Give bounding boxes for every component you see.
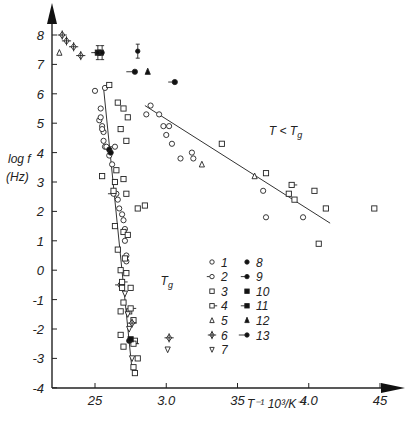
y-tick-label: 1 <box>37 234 44 249</box>
data-point <box>107 82 112 87</box>
y-tick-label: 6 <box>37 87 45 102</box>
data-point <box>110 162 115 167</box>
data-point <box>122 238 127 243</box>
data-point <box>122 256 127 261</box>
data-point <box>167 124 172 129</box>
legend-label: 8 <box>256 256 263 270</box>
data-point <box>316 241 321 246</box>
x-axis-arrow-icon <box>381 383 405 393</box>
x-tick-label: 3.0 <box>157 393 176 408</box>
data-point <box>115 100 120 105</box>
data-point <box>57 50 62 56</box>
arrhenius-plot: 876543210-1-2-3-4 253.0354.045 T < TgTg … <box>0 0 410 421</box>
y-tick-label: 5 <box>37 116 45 131</box>
y-tick-label: 3 <box>37 175 45 190</box>
y-tick-label: 2 <box>36 204 45 219</box>
data-point <box>118 126 123 131</box>
data-point <box>121 344 126 349</box>
data-point <box>126 69 137 74</box>
data-point <box>161 124 166 129</box>
legend-item-5: 5 <box>210 314 228 328</box>
data-point <box>136 44 140 58</box>
legend-item-6: 6 <box>208 329 228 343</box>
data-point <box>98 106 103 111</box>
legend-item-12: 12 <box>245 314 270 328</box>
data-point <box>100 174 105 179</box>
x-tick-label: 35 <box>230 393 245 408</box>
annotation-label: T < Tg <box>269 124 302 140</box>
data-point <box>144 112 149 117</box>
data-point <box>125 115 130 120</box>
data-point <box>119 279 127 284</box>
legend-item-8: 8 <box>245 256 263 270</box>
legend-label: 3 <box>221 285 228 299</box>
y-ticks: 876543210-1-2-3-4 <box>32 28 57 396</box>
legend-item-2: 2 <box>207 270 228 284</box>
data-point <box>127 326 132 332</box>
data-point <box>119 212 124 217</box>
data-point <box>121 176 126 181</box>
data-point <box>372 206 377 211</box>
data-point <box>135 206 140 211</box>
data-point <box>169 141 174 146</box>
fit-line-t-tg <box>145 106 330 224</box>
series-1 <box>92 85 305 264</box>
data-point <box>100 126 105 131</box>
y-axis-label-line2: (Hz) <box>6 170 29 184</box>
data-point <box>118 268 123 273</box>
data-point <box>128 285 133 290</box>
data-point <box>312 188 317 193</box>
data-point <box>165 347 170 353</box>
series-10 <box>128 337 133 342</box>
data-point <box>92 88 97 93</box>
data-point <box>124 191 129 196</box>
data-point <box>111 188 116 193</box>
data-point <box>189 150 194 155</box>
data-point <box>128 306 136 311</box>
data-point <box>108 150 113 155</box>
x-tick-label: 25 <box>87 393 103 408</box>
data-point <box>323 206 328 211</box>
legend-label: 6 <box>221 329 228 343</box>
y-tick-label: 7 <box>37 57 45 72</box>
data-point <box>125 232 130 237</box>
legend-item-13: 13 <box>239 329 270 343</box>
data-point <box>112 224 117 229</box>
legend-item-7: 7 <box>210 343 229 357</box>
legend-item-9: 9 <box>241 270 263 284</box>
data-point <box>135 356 140 361</box>
data-point <box>128 337 133 342</box>
data-point <box>263 215 268 220</box>
data-point <box>289 182 297 187</box>
data-point <box>145 68 150 74</box>
legend-label: 12 <box>256 314 270 328</box>
data-point <box>292 197 297 202</box>
data-point <box>117 206 122 211</box>
data-point <box>263 171 268 176</box>
data-point <box>122 291 127 297</box>
legend-item-3: 3 <box>210 285 228 299</box>
data-point <box>96 46 100 60</box>
legend-item-4: 4 <box>210 299 228 313</box>
data-point <box>286 191 291 196</box>
legend-label: 7 <box>221 343 229 357</box>
data-point <box>124 138 129 143</box>
data-point <box>121 106 126 111</box>
legend: 12345678910111213 <box>207 256 270 358</box>
data-point <box>219 141 224 146</box>
data-point <box>115 197 120 202</box>
data-point <box>164 132 169 137</box>
y-axis-label-line1: log f <box>8 152 32 166</box>
data-point <box>98 115 103 120</box>
y-tick-label: 4 <box>37 146 44 161</box>
data-point <box>199 161 204 167</box>
data-point <box>178 156 183 161</box>
legend-label: 9 <box>256 270 263 284</box>
legend-item-10: 10 <box>245 285 270 299</box>
legend-label: 11 <box>256 299 268 313</box>
annotation-label: Tg <box>161 274 173 290</box>
data-point <box>132 371 137 376</box>
legend-item-1: 1 <box>210 256 228 270</box>
y-axis-label: log f (Hz) <box>6 152 32 184</box>
data-point <box>124 271 129 276</box>
